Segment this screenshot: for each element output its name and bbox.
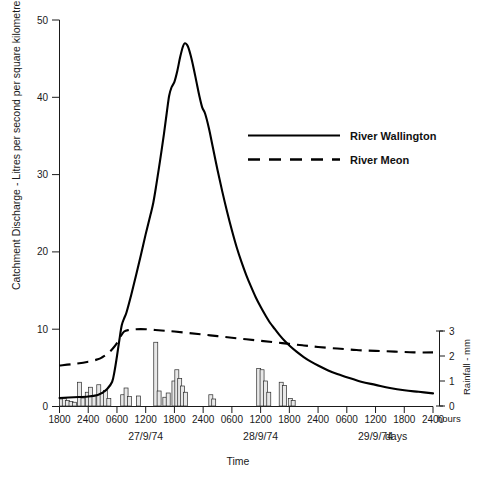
y-axis-ticks: [52, 20, 60, 407]
rainfall-bar: [72, 402, 76, 406]
x-axis: 1800240006001200180024000600120018002400…: [48, 407, 461, 468]
rainfall-bar: [81, 398, 85, 406]
rainfall-tick-label: 2: [449, 351, 455, 362]
rainfall-bar: [283, 386, 287, 407]
x-tick-label: 2400: [192, 414, 215, 425]
y-tick-label: 30: [37, 169, 49, 180]
rainfall-bar: [267, 392, 271, 406]
day-label: 27/9/74: [128, 430, 163, 442]
x-axis-title: Time: [227, 455, 250, 467]
x-tick-label: 1800: [163, 414, 186, 425]
rainfall-tick-label: 3: [449, 326, 455, 337]
rainfall-bar: [107, 399, 111, 407]
rainfall-bar: [127, 397, 131, 407]
x-tick-label: 2400: [77, 414, 100, 425]
x-axis-day-unit-label: days: [385, 430, 407, 442]
rainfall-tick-label: 1: [449, 376, 455, 387]
rainfall-bar: [166, 393, 170, 406]
rainfall-axis: 0123 Rainfall - mm: [436, 326, 472, 412]
x-axis-day-labels: 27/9/7428/9/7429/9/74: [128, 430, 393, 442]
y-axis: 01020304050 Catchment Discharge - Litres…: [10, 0, 60, 412]
y-axis-title: Catchment Discharge - Litres per second …: [10, 0, 22, 290]
x-tick-label: 1800: [278, 414, 301, 425]
x-tick-label: 0600: [221, 414, 244, 425]
rainfall-bar: [183, 392, 187, 406]
rainfall-tick-label: 0: [449, 401, 455, 412]
y-tick-label: 20: [37, 246, 49, 257]
hydrograph-figure: 01020304050 Catchment Discharge - Litres…: [0, 0, 477, 477]
rainfall-axis-title: Rainfall - mm: [461, 339, 472, 395]
rainfall-bar: [137, 396, 141, 406]
rainfall-bar: [212, 399, 216, 406]
day-label: 28/9/74: [243, 430, 278, 442]
x-tick-label: 1200: [249, 414, 272, 425]
rainfall-bar: [291, 401, 295, 407]
x-axis-ticks: [60, 407, 434, 414]
y-tick-label: 50: [37, 15, 49, 26]
y-tick-label: 40: [37, 92, 49, 103]
y-tick-label: 10: [37, 324, 49, 335]
legend-label-river-meon: River Meon: [350, 154, 410, 166]
rainfall-axis-ticks: [440, 331, 446, 406]
y-tick-label: 0: [42, 401, 48, 412]
rainfall-axis-tick-labels: 0123: [449, 326, 455, 412]
legend: River Wallington River Meon: [248, 130, 437, 166]
x-axis-tick-labels: 1800240006001200180024000600120018002400…: [48, 414, 444, 425]
x-tick-label: 1800: [48, 414, 71, 425]
y-axis-tick-labels: 01020304050: [37, 15, 49, 413]
legend-label-river-wallington: River Wallington: [350, 130, 437, 142]
chart-canvas: 01020304050 Catchment Discharge - Litres…: [0, 0, 477, 477]
x-tick-label: 0600: [106, 414, 129, 425]
rainfall-bar: [157, 391, 161, 406]
x-axis-unit-label: hours: [437, 413, 461, 424]
x-tick-label: 2400: [307, 414, 330, 425]
x-tick-label: 1200: [135, 414, 158, 425]
rainfall-bar: [92, 396, 96, 407]
x-tick-label: 1800: [393, 414, 416, 425]
x-tick-label: 0600: [336, 414, 359, 425]
x-tick-label: 1200: [364, 414, 387, 425]
